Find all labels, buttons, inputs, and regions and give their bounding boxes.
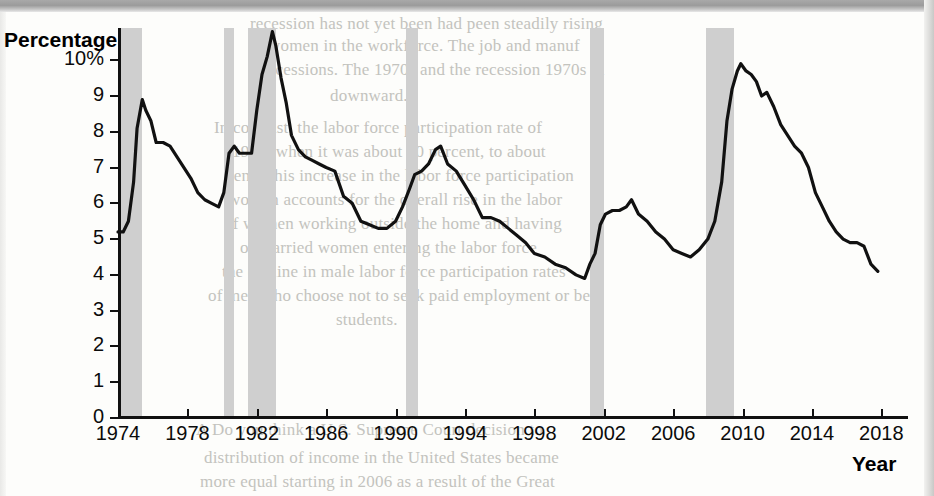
x-axis-tick-label: 1998 xyxy=(499,422,569,445)
unemployment-rate-line xyxy=(118,28,890,418)
y-axis-tick xyxy=(110,238,119,240)
y-axis-tick-label: 6 xyxy=(10,190,104,213)
plot-area xyxy=(118,28,890,418)
x-axis-tick xyxy=(604,409,606,418)
y-axis-tick-label: 3 xyxy=(10,298,104,321)
x-axis-tick-label: 1982 xyxy=(222,422,292,445)
x-axis-tick-label: 1990 xyxy=(361,422,431,445)
scan-right-edge-artifact xyxy=(924,0,934,496)
x-axis-tick xyxy=(118,409,120,418)
y-axis-tick-label: 4 xyxy=(10,262,104,285)
x-axis-tick-label: 1986 xyxy=(291,422,361,445)
y-axis-tick xyxy=(110,95,119,97)
series-path xyxy=(118,32,878,279)
scan-left-edge-artifact xyxy=(0,12,6,496)
y-axis-tick-label: 10% xyxy=(10,47,104,70)
x-axis-tick xyxy=(534,409,536,418)
x-axis-tick xyxy=(743,409,745,418)
y-axis-tick-label: 2 xyxy=(10,333,104,356)
y-axis-tick-label: 8 xyxy=(10,119,104,142)
x-axis-tick-label: 1974 xyxy=(83,422,153,445)
x-axis-tick xyxy=(396,409,398,418)
y-axis-tick-label: 5 xyxy=(10,226,104,249)
scan-top-edge-artifact xyxy=(0,0,934,12)
y-axis-tick-label: 7 xyxy=(10,155,104,178)
x-axis-tick-label: 2010 xyxy=(708,422,778,445)
y-axis-tick xyxy=(110,310,119,312)
bleedthrough-line: more equal starting in 2006 as a result … xyxy=(200,472,555,492)
y-axis-tick xyxy=(110,59,119,61)
y-axis-tick xyxy=(110,167,119,169)
x-axis-tick-label: 1978 xyxy=(152,422,222,445)
x-axis-tick xyxy=(881,409,883,418)
x-axis-tick-label: 2006 xyxy=(638,422,708,445)
x-axis-tick xyxy=(465,409,467,418)
x-axis-title: Year xyxy=(852,452,896,476)
x-axis-tick-label: 1994 xyxy=(430,422,500,445)
x-axis-line xyxy=(118,416,908,419)
x-axis-tick-label: 2018 xyxy=(846,422,916,445)
bleedthrough-line: distribution of income in the United Sta… xyxy=(204,448,559,468)
x-axis-tick xyxy=(673,409,675,418)
y-axis-line xyxy=(118,28,121,419)
x-axis-tick xyxy=(187,409,189,418)
y-axis-tick xyxy=(110,202,119,204)
x-axis-tick xyxy=(326,409,328,418)
x-axis-tick-label: 2002 xyxy=(569,422,639,445)
x-axis-tick xyxy=(812,409,814,418)
x-axis-tick-label: 2014 xyxy=(777,422,847,445)
y-axis-tick-label: 9 xyxy=(10,83,104,106)
scanned-figure-page: recession has not yet been had peen stea… xyxy=(0,0,934,496)
y-axis-tick-label: 1 xyxy=(10,369,104,392)
y-axis-tick xyxy=(110,381,119,383)
y-axis-tick xyxy=(110,345,119,347)
y-axis-tick xyxy=(110,131,119,133)
y-axis-tick xyxy=(110,274,119,276)
x-axis-tick xyxy=(257,409,259,418)
